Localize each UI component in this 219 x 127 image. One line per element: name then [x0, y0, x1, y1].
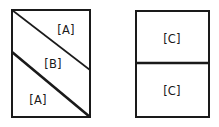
left-region-top-label: [A] [57, 23, 74, 37]
right-region-top-label: [C] [163, 32, 181, 46]
left-region-bottom-label: [A] [29, 93, 46, 107]
right-rectangle-group: [C] [C] [136, 11, 209, 117]
diagram-container: [A] [B] [A] [C] [C] [0, 0, 219, 127]
left-rectangle-group: [A] [B] [A] [12, 10, 90, 117]
diagram-canvas: [A] [B] [A] [C] [C] [0, 0, 219, 127]
left-region-middle-label: [B] [44, 57, 61, 71]
right-region-bottom-label: [C] [163, 84, 181, 98]
